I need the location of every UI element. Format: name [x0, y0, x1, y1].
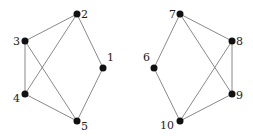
- node-1: [100, 65, 107, 72]
- edge-2-3: [25, 14, 77, 41]
- node-7: [177, 11, 184, 18]
- node-label-6: 6: [143, 51, 150, 64]
- node-label-7: 7: [169, 8, 176, 21]
- node-4: [22, 91, 29, 98]
- node-8: [229, 38, 236, 45]
- node-label-5: 5: [81, 120, 88, 133]
- edge-9-10: [180, 94, 232, 121]
- edge-1-5: [77, 68, 103, 121]
- edge-8-10: [180, 41, 232, 121]
- left-graph: 12345: [13, 8, 114, 133]
- node-label-1: 1: [107, 51, 114, 64]
- node-9: [229, 91, 236, 98]
- node-2: [74, 11, 81, 18]
- node-6: [151, 65, 158, 72]
- edge-2-1: [77, 14, 103, 68]
- edge-3-5: [25, 41, 77, 121]
- edge-7-6: [154, 14, 180, 68]
- node-3: [22, 38, 29, 45]
- node-label-4: 4: [13, 92, 20, 105]
- edge-7-8: [180, 14, 232, 41]
- node-label-9: 9: [236, 89, 243, 102]
- graph-canvas: 12345678910: [0, 0, 253, 136]
- edge-4-5: [25, 94, 77, 121]
- node-label-2: 2: [81, 8, 88, 21]
- edge-6-10: [154, 68, 180, 121]
- edge-2-4: [25, 14, 77, 94]
- node-5: [74, 118, 81, 125]
- edge-7-9: [180, 14, 232, 94]
- node-10: [177, 118, 184, 125]
- node-label-3: 3: [13, 35, 20, 48]
- right-graph: 678910: [143, 8, 243, 132]
- node-label-8: 8: [236, 35, 243, 48]
- node-label-10: 10: [160, 119, 174, 132]
